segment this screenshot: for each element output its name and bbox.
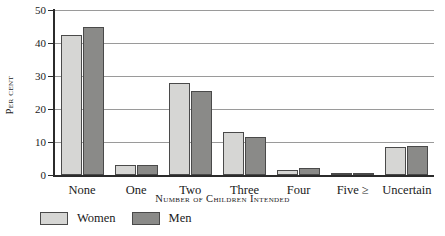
bar-group	[217, 10, 271, 175]
y-axis-tick-mark	[48, 43, 53, 44]
bar-men-four	[299, 168, 320, 175]
plot-area: 01020304050 NoneOneTwoThreeFourFive ≥Unc…	[55, 10, 434, 175]
bar-men-three	[245, 137, 266, 175]
y-axis-tick-label: 30	[35, 70, 46, 82]
bar-women-none	[61, 35, 82, 175]
y-axis-title: Per cent	[4, 76, 15, 114]
y-axis-tick-mark	[48, 175, 53, 176]
bar-women-five	[331, 173, 352, 175]
bar-women-three	[223, 132, 244, 175]
y-axis-tick-mark	[48, 10, 53, 11]
bar-group	[163, 10, 217, 175]
y-axis-tick-label: 40	[35, 37, 46, 49]
bar-group	[272, 10, 326, 175]
bar-women-two	[169, 83, 190, 175]
legend-item-women[interactable]: Women	[40, 211, 116, 226]
legend-label: Women	[77, 211, 116, 226]
x-axis-title: Number of Children Intended	[0, 193, 445, 204]
bar-group	[380, 10, 434, 175]
y-axis-tick-mark	[48, 142, 53, 143]
y-axis-tick-mark	[48, 109, 53, 110]
legend-swatch-women	[40, 212, 68, 225]
y-axis-tick-label: 20	[35, 103, 46, 115]
legend-swatch-men	[132, 212, 160, 225]
x-axis-line	[53, 175, 434, 177]
bar-men-five	[353, 173, 374, 175]
bar-men-one	[137, 165, 158, 175]
bar-chart-figure: Per cent 01020304050 NoneOneTwoThreeFour…	[0, 0, 445, 236]
bar-group	[326, 10, 380, 175]
bar-group	[109, 10, 163, 175]
chart-legend: WomenMen	[40, 211, 192, 226]
y-axis-tick-label: 50	[35, 4, 46, 16]
bar-men-none	[83, 27, 104, 176]
y-axis-title-container: Per cent	[0, 40, 18, 150]
y-axis-tick-label: 0	[41, 169, 47, 181]
legend-item-men[interactable]: Men	[132, 211, 192, 226]
y-axis-tick-mark	[48, 76, 53, 77]
bar-group	[55, 10, 109, 175]
bar-women-four	[277, 170, 298, 175]
bar-men-uncertain	[407, 146, 428, 175]
bar-men-two	[191, 91, 212, 175]
y-axis-tick-label: 10	[35, 136, 46, 148]
bar-women-one	[115, 165, 136, 175]
bar-women-uncertain	[385, 147, 406, 175]
legend-label: Men	[169, 211, 192, 226]
